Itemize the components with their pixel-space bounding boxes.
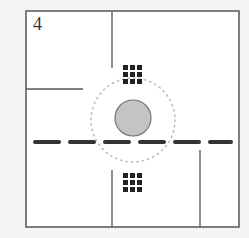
diagram-canvas <box>0 0 249 238</box>
upper-dot-grid <box>123 65 142 84</box>
lower-dot-grid <box>123 173 142 192</box>
panel-number-label: 4 <box>33 15 42 33</box>
solid-circle <box>115 100 151 136</box>
